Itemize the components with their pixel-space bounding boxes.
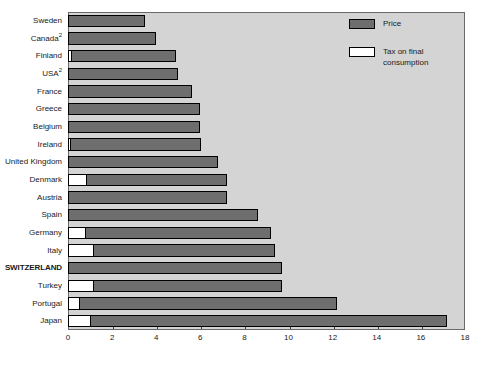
- category-label-portugal: Portugal: [0, 295, 62, 313]
- stacked-bar: [68, 103, 200, 115]
- bar-row: Germany: [0, 224, 483, 242]
- bar-segment-price: [69, 104, 199, 114]
- bar-chart: SwedenCanada2FinlandUSA2FranceGreeceBelg…: [0, 0, 483, 366]
- category-label-denmark: Denmark: [0, 171, 62, 189]
- stacked-bar: [68, 32, 156, 44]
- bar-segment-price: [69, 33, 155, 43]
- bar-segment-price: [69, 16, 144, 26]
- bar-segment-tax: [69, 298, 80, 308]
- category-label-germany: Germany: [0, 224, 62, 242]
- stacked-bar: [68, 156, 218, 168]
- stacked-bar: [68, 262, 282, 274]
- bar-segment-price: [94, 245, 274, 255]
- bar-segment-price: [69, 263, 281, 273]
- bar-row: Turkey: [0, 277, 483, 295]
- stacked-bar: [68, 209, 258, 221]
- bar-row: Belgium: [0, 118, 483, 136]
- bar-segment-price: [87, 175, 226, 185]
- bar-segment-price: [69, 157, 217, 167]
- bar-segment-price: [69, 69, 177, 79]
- bar-row: Portugal: [0, 295, 483, 313]
- bar-row: France: [0, 83, 483, 101]
- bar-segment-price: [86, 228, 270, 238]
- legend-item-tax: Tax on final consumption: [349, 46, 428, 68]
- bar-row: Italy: [0, 242, 483, 260]
- category-label-ireland: Ireland: [0, 136, 62, 154]
- bar-segment-price: [94, 281, 281, 291]
- bar-row: Greece: [0, 100, 483, 118]
- x-axis-tick-label: 14: [362, 333, 392, 342]
- price-swatch-icon: [349, 19, 375, 29]
- stacked-bar: [68, 315, 447, 327]
- stacked-bar: [68, 280, 282, 292]
- tax-swatch-icon: [349, 47, 375, 57]
- category-label-sweden: Sweden: [0, 12, 62, 30]
- x-axis-tick-label: 10: [274, 333, 304, 342]
- legend-label-price: Price: [383, 18, 401, 29]
- category-label-turkey: Turkey: [0, 277, 62, 295]
- stacked-bar: [68, 85, 192, 97]
- category-label-united-kingdom: United Kingdom: [0, 153, 62, 171]
- category-label-belgium: Belgium: [0, 118, 62, 136]
- x-axis-tick-label: 4: [141, 333, 171, 342]
- footnote-marker: 2: [59, 67, 62, 73]
- x-axis-tick-label: 2: [97, 333, 127, 342]
- bar-segment-price: [69, 122, 199, 132]
- stacked-bar: [68, 174, 227, 186]
- stacked-bar: [68, 50, 176, 62]
- category-label-finland: Finland: [0, 47, 62, 65]
- bar-segment-tax: [69, 316, 91, 326]
- bar-row: Spain: [0, 206, 483, 224]
- x-axis-tick-label: 12: [318, 333, 348, 342]
- category-label-greece: Greece: [0, 100, 62, 118]
- x-axis-tick-label: 6: [185, 333, 215, 342]
- stacked-bar: [68, 121, 200, 133]
- category-label-japan: Japan: [0, 312, 62, 330]
- category-label-canada: Canada2: [0, 30, 62, 48]
- x-axis-tick-label: 16: [406, 333, 436, 342]
- bar-segment-tax: [69, 228, 86, 238]
- bar-segment-tax: [69, 281, 94, 291]
- bar-segment-price: [91, 316, 446, 326]
- bar-segment-price: [69, 86, 191, 96]
- stacked-bar: [68, 244, 275, 256]
- bar-segment-price: [71, 139, 200, 149]
- category-label-usa: USA2: [0, 65, 62, 83]
- bar-segment-tax: [69, 245, 94, 255]
- bar-segment-price: [72, 51, 175, 61]
- bar-segment-tax: [69, 175, 87, 185]
- footnote-marker: 2: [59, 32, 62, 38]
- bar-row: Japan: [0, 312, 483, 330]
- bar-segment-price: [80, 298, 336, 308]
- category-label-austria: Austria: [0, 189, 62, 207]
- bar-row: Ireland: [0, 136, 483, 154]
- x-axis-line: [68, 329, 465, 330]
- legend-item-price: Price: [349, 18, 401, 29]
- x-axis-tick-labels: 024681012141618: [0, 333, 483, 347]
- bar-row: United Kingdom: [0, 153, 483, 171]
- bar-segment-price: [69, 192, 226, 202]
- stacked-bar: [68, 15, 145, 27]
- legend: Price Tax on final consumption: [349, 18, 459, 72]
- x-axis-tick-label: 18: [450, 333, 480, 342]
- stacked-bar: [68, 297, 337, 309]
- bar-row: Denmark: [0, 171, 483, 189]
- bar-segment-price: [69, 210, 257, 220]
- stacked-bar: [68, 138, 201, 150]
- category-label-spain: Spain: [0, 206, 62, 224]
- x-axis-tick-label: 8: [229, 333, 259, 342]
- x-axis-tick-label: 0: [53, 333, 83, 342]
- stacked-bar: [68, 227, 271, 239]
- bar-row: Austria: [0, 189, 483, 207]
- stacked-bar: [68, 68, 178, 80]
- stacked-bar: [68, 191, 227, 203]
- legend-label-tax: Tax on final consumption: [383, 46, 428, 68]
- category-label-switzerland: SWITZERLAND: [0, 259, 62, 277]
- bar-row: SWITZERLAND: [0, 259, 483, 277]
- category-label-italy: Italy: [0, 242, 62, 260]
- category-label-france: France: [0, 83, 62, 101]
